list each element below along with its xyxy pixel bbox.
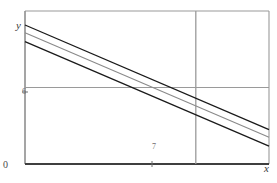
x-axis-label: x xyxy=(264,163,269,174)
data-line-middle xyxy=(25,33,269,138)
data-line-lower xyxy=(25,42,269,147)
data-line-upper xyxy=(25,25,269,130)
plot-area xyxy=(0,0,277,183)
x-tick-label-7: 7 xyxy=(152,143,156,151)
figure-container: y x 0 6 7 xyxy=(0,0,277,183)
y-axis-label: y xyxy=(16,20,21,31)
y-tick-label-6: 6 xyxy=(22,88,26,96)
origin-label: 0 xyxy=(3,160,8,170)
